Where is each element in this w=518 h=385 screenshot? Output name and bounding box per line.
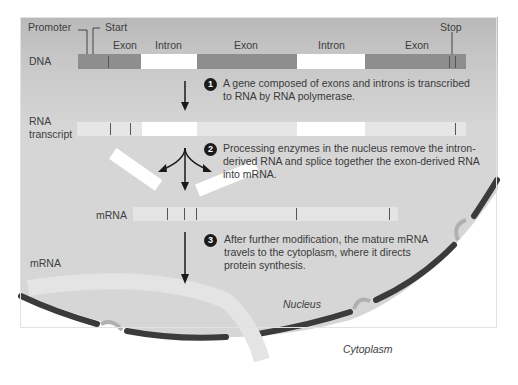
dna-exon-2 bbox=[197, 54, 297, 69]
cytoplasm-label: Cytoplasm bbox=[343, 344, 393, 356]
stop-label: Stop bbox=[440, 22, 462, 34]
rna-stop-marker bbox=[455, 123, 456, 135]
dna-exon-1 bbox=[78, 54, 141, 69]
mrna-marker bbox=[184, 208, 185, 220]
mrna-splice-junction bbox=[296, 208, 297, 220]
rna-exon-3 bbox=[365, 122, 466, 136]
rna-transcript-label-line1: RNA bbox=[29, 116, 51, 128]
step-1-number-badge: 1 bbox=[204, 78, 217, 91]
rna-exon-2 bbox=[197, 122, 297, 136]
rna-intron-1 bbox=[142, 122, 197, 136]
rna-marker bbox=[130, 123, 131, 135]
exported-mrna-label: mRNA bbox=[30, 258, 61, 270]
mrna-label: mRNA bbox=[96, 210, 127, 222]
step-3-number-badge: 3 bbox=[204, 234, 217, 247]
dna-exon-label-2: Exon bbox=[234, 40, 258, 52]
dna-stop-marker bbox=[455, 56, 456, 68]
dna-exon-label-3: Exon bbox=[405, 40, 429, 52]
dna-exon-label-1: Exon bbox=[113, 40, 137, 52]
dna-exon-3 bbox=[365, 54, 466, 69]
mrna-marker bbox=[167, 208, 168, 220]
step-2-text: Processing enzymes in the nucleus remove… bbox=[223, 142, 485, 181]
dna-intron-1 bbox=[141, 54, 197, 69]
nucleus-label: Nucleus bbox=[283, 299, 321, 311]
mrna-body bbox=[133, 207, 398, 221]
start-label: Start bbox=[105, 22, 127, 34]
rna-intron-2 bbox=[297, 122, 365, 136]
dna-intron-label-1: Intron bbox=[155, 40, 182, 52]
dna-stop-marker bbox=[449, 56, 450, 68]
dna-marker bbox=[108, 56, 109, 68]
step-1-text: A gene composed of exons and introns is … bbox=[223, 77, 473, 103]
dna-intron-2 bbox=[297, 54, 365, 69]
step-2-number-badge: 2 bbox=[204, 143, 217, 156]
mrna-stop-marker bbox=[389, 208, 390, 220]
rna-transcript-label-line2: transcript bbox=[29, 129, 72, 141]
dna-intron-label-2: Intron bbox=[318, 40, 345, 52]
dna-label: DNA bbox=[29, 56, 51, 68]
rna-marker bbox=[110, 123, 111, 135]
mrna-marker bbox=[196, 208, 197, 220]
step-3-text: After further modification, the mature m… bbox=[224, 233, 439, 272]
promoter-label: Promoter bbox=[28, 22, 71, 34]
